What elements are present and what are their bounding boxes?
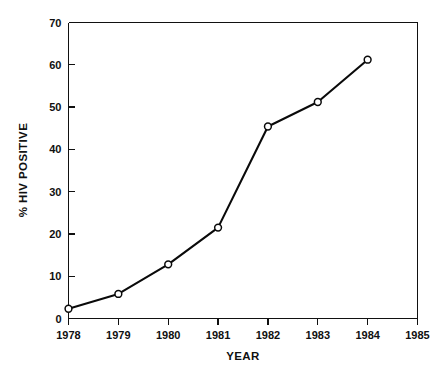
y-tick-label: 0: [55, 313, 61, 325]
x-tick-label: 1985: [405, 329, 429, 341]
y-axis-title: % HIV POSITIVE: [17, 123, 29, 217]
data-point-marker: [314, 99, 321, 106]
x-tick-label: 1979: [106, 329, 130, 341]
x-tick-label: 1981: [206, 329, 230, 341]
x-axis-ticks: 19781979198019811982198319841985: [56, 319, 429, 341]
data-point-marker: [364, 56, 371, 63]
y-tick-label: 20: [49, 228, 61, 240]
y-tick-label: 30: [49, 186, 61, 198]
x-tick-label: 1978: [56, 329, 80, 341]
y-tick-label: 60: [49, 59, 61, 71]
line-chart: 010203040506070 197819791980198119821983…: [0, 0, 443, 377]
data-series-group: [65, 56, 371, 312]
x-tick-label: 1983: [306, 329, 330, 341]
x-axis-title: YEAR: [226, 350, 260, 362]
data-point-marker: [215, 224, 222, 231]
y-tick-label: 40: [49, 143, 61, 155]
series-line: [69, 60, 368, 309]
data-point-marker: [65, 305, 72, 312]
y-tick-label: 10: [49, 270, 61, 282]
data-point-marker: [265, 123, 272, 130]
x-tick-label: 1980: [156, 329, 180, 341]
y-tick-label: 70: [49, 17, 61, 29]
x-tick-label: 1982: [256, 329, 280, 341]
chart-figure: 010203040506070 197819791980198119821983…: [0, 0, 443, 377]
x-tick-label: 1984: [355, 329, 380, 341]
data-point-marker: [115, 291, 122, 298]
y-axis-ticks: 010203040506070: [49, 17, 74, 325]
y-tick-label: 50: [49, 101, 61, 113]
plot-frame: [69, 23, 418, 319]
data-point-marker: [165, 261, 172, 268]
